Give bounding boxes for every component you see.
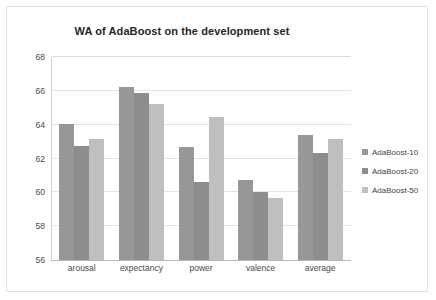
y-axis-tick-label: 62 bbox=[7, 154, 45, 164]
bar[interactable] bbox=[149, 104, 164, 260]
legend-item-label: AdaBoost-20 bbox=[372, 167, 418, 176]
y-axis-tick-label: 58 bbox=[7, 221, 45, 231]
bar[interactable] bbox=[209, 117, 224, 260]
bar-group bbox=[119, 57, 164, 260]
bar[interactable] bbox=[59, 124, 74, 260]
bar[interactable] bbox=[238, 180, 253, 260]
bars-layer bbox=[52, 57, 350, 260]
legend-item-2[interactable]: AdaBoost-20 bbox=[362, 163, 432, 179]
bar[interactable] bbox=[134, 93, 149, 260]
y-axis-tick-label: 60 bbox=[7, 187, 45, 197]
y-axis: 56586062646668 bbox=[7, 57, 45, 260]
bar[interactable] bbox=[298, 135, 313, 260]
legend-swatch-icon bbox=[362, 168, 368, 174]
x-axis-tick-label: average bbox=[305, 263, 336, 273]
x-axis-tick-label: arousal bbox=[68, 263, 96, 273]
y-axis-tick-label: 64 bbox=[7, 120, 45, 130]
bar[interactable] bbox=[179, 147, 194, 260]
x-axis-tick-label: expectancy bbox=[120, 263, 163, 273]
x-axis-tick-label: valence bbox=[246, 263, 275, 273]
legend-swatch-icon bbox=[362, 187, 368, 193]
x-axis: arousalexpectancypowervalenceaverage bbox=[52, 263, 350, 279]
legend-item-3[interactable]: AdaBoost-50 bbox=[362, 182, 432, 198]
x-axis-tick-label: power bbox=[189, 263, 212, 273]
legend-item-1[interactable]: AdaBoost-10 bbox=[362, 144, 432, 160]
y-axis-tick-label: 56 bbox=[7, 255, 45, 265]
bar[interactable] bbox=[313, 153, 328, 260]
bar[interactable] bbox=[328, 139, 343, 260]
bar[interactable] bbox=[89, 139, 104, 260]
bar-group bbox=[179, 57, 224, 260]
bar[interactable] bbox=[74, 146, 89, 260]
bar[interactable] bbox=[119, 87, 134, 260]
legend-swatch-icon bbox=[362, 149, 368, 155]
bar-group bbox=[59, 57, 104, 260]
chart-container: WA of AdaBoost on the development set 56… bbox=[6, 6, 428, 292]
bar-group bbox=[298, 57, 343, 260]
legend-item-label: AdaBoost-10 bbox=[372, 148, 418, 157]
chart-title: WA of AdaBoost on the development set bbox=[7, 25, 357, 37]
y-axis-tick-label: 68 bbox=[7, 52, 45, 62]
chart-legend: AdaBoost-10AdaBoost-20AdaBoost-50 bbox=[362, 144, 432, 201]
bar[interactable] bbox=[194, 182, 209, 260]
legend-item-label: AdaBoost-50 bbox=[372, 186, 418, 195]
bar-group bbox=[238, 57, 283, 260]
bar[interactable] bbox=[253, 192, 268, 260]
bar[interactable] bbox=[268, 198, 283, 260]
y-axis-tick-label: 66 bbox=[7, 86, 45, 96]
